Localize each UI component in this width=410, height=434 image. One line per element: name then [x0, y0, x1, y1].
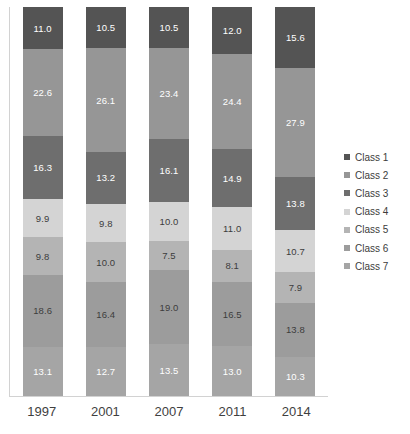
- legend-item-class-1[interactable]: Class 1: [344, 148, 410, 166]
- segment-value-label: 7.9: [289, 282, 303, 293]
- bar-segment: 10.0: [86, 242, 126, 282]
- legend-label: Class 3: [355, 188, 388, 199]
- legend: Class 1Class 2Class 3Class 4Class 5Class…: [344, 148, 410, 275]
- bar-segment: 7.9: [275, 272, 315, 303]
- stacked-bar: 11.022.616.39.99.818.613.1: [23, 7, 63, 397]
- bar-segment: 14.9: [212, 149, 252, 207]
- segment-value-label: 13.5: [160, 365, 179, 376]
- bar-segment: 11.0: [212, 207, 252, 250]
- bar-segment: 8.1: [212, 250, 252, 282]
- legend-swatch-icon: [344, 209, 350, 215]
- segment-value-label: 9.8: [99, 218, 113, 229]
- bar-segment: 16.5: [212, 282, 252, 346]
- segment-value-label: 10.3: [286, 371, 305, 382]
- bar-segment: 26.1: [86, 48, 126, 151]
- segment-value-label: 14.9: [223, 173, 242, 184]
- legend-item-class-7[interactable]: Class 7: [344, 257, 410, 275]
- bar-group-2001: 10.526.113.29.810.016.412.7: [74, 7, 137, 397]
- segment-value-label: 12.7: [96, 366, 115, 377]
- bar-segment: 16.1: [149, 139, 189, 202]
- segment-value-label: 11.0: [34, 23, 52, 34]
- legend-swatch-icon: [344, 227, 350, 233]
- segment-value-label: 13.8: [286, 324, 305, 335]
- bar-segment: 10.7: [275, 230, 315, 272]
- legend-swatch-icon: [344, 263, 350, 269]
- legend-label: Class 4: [355, 206, 388, 217]
- bar-segment: 12.0: [212, 7, 252, 54]
- segment-value-label: 9.8: [36, 251, 50, 262]
- segment-value-label: 10.5: [96, 22, 115, 33]
- segment-value-label: 11.0: [223, 223, 241, 234]
- segment-value-label: 10.0: [96, 257, 115, 268]
- bar-segment: 12.7: [86, 347, 126, 397]
- bar-segment: 16.3: [23, 136, 63, 199]
- stacked-bar: 10.523.416.110.07.519.013.5: [149, 7, 189, 397]
- bar-segment: 24.4: [212, 54, 252, 149]
- segment-value-label: 10.0: [160, 216, 179, 227]
- segment-value-label: 9.9: [36, 213, 50, 224]
- segment-value-label: 13.1: [33, 366, 52, 377]
- clipped-chart-title: [0, 0, 330, 7]
- x-tick-2007: 2007: [137, 399, 201, 425]
- x-tick-2014: 2014: [264, 399, 328, 425]
- bar-group-1997: 11.022.616.39.99.818.613.1: [11, 7, 74, 397]
- legend-item-class-2[interactable]: Class 2: [344, 166, 410, 184]
- legend-swatch-icon: [344, 190, 350, 196]
- bar-segment: 9.8: [23, 237, 63, 275]
- bar-segment: 13.8: [275, 303, 315, 357]
- plot-area: 11.022.616.39.99.818.613.110.526.113.29.…: [9, 7, 327, 397]
- bar-columns: 11.022.616.39.99.818.613.110.526.113.29.…: [11, 7, 327, 397]
- segment-value-label: 27.9: [286, 117, 305, 128]
- legend-label: Class 6: [355, 243, 388, 254]
- segment-value-label: 13.0: [223, 366, 242, 377]
- segment-value-label: 8.1: [225, 260, 239, 271]
- legend-label: Class 5: [355, 224, 388, 235]
- bar-segment: 13.5: [149, 344, 189, 397]
- segment-value-label: 16.4: [96, 309, 115, 320]
- stacked-bar: 10.526.113.29.810.016.412.7: [86, 7, 126, 397]
- bar-segment: 13.8: [275, 177, 315, 231]
- legend-item-class-5[interactable]: Class 5: [344, 221, 410, 239]
- bar-segment: 18.6: [23, 275, 63, 347]
- legend-label: Class 1: [355, 152, 388, 163]
- bar-segment: 16.4: [86, 282, 126, 347]
- legend-swatch-icon: [344, 154, 350, 160]
- segment-value-label: 19.0: [160, 302, 179, 313]
- bar-segment: 13.1: [23, 347, 63, 397]
- legend-swatch-icon: [344, 245, 350, 251]
- legend-item-class-3[interactable]: Class 3: [344, 184, 410, 202]
- segment-value-label: 10.5: [160, 22, 179, 33]
- segment-value-label: 22.6: [33, 87, 52, 98]
- stacked-bar: 12.024.414.911.08.116.513.0: [212, 7, 252, 397]
- segment-value-label: 24.4: [223, 96, 242, 107]
- stacked-bar: 15.627.913.810.77.913.810.3: [275, 7, 315, 397]
- x-axis-line: [10, 396, 328, 397]
- bar-segment: 19.0: [149, 270, 189, 344]
- x-axis-tick-labels: 19972001200720112014: [10, 399, 328, 425]
- bar-segment: 22.6: [23, 49, 63, 136]
- bar-segment: 9.8: [86, 204, 126, 243]
- legend-label: Class 2: [355, 170, 388, 181]
- legend-label: Class 7: [355, 261, 388, 272]
- segment-value-label: 10.7: [286, 246, 305, 257]
- bar-segment: 13.0: [212, 346, 252, 397]
- legend-item-class-4[interactable]: Class 4: [344, 203, 410, 221]
- bar-group-2014: 15.627.913.810.77.913.810.3: [264, 7, 327, 397]
- segment-value-label: 7.5: [162, 250, 176, 261]
- x-tick-2011: 2011: [201, 399, 265, 425]
- segment-value-label: 13.8: [286, 198, 305, 209]
- bar-segment: 11.0: [23, 7, 63, 49]
- bar-segment: 7.5: [149, 241, 189, 270]
- x-tick-2001: 2001: [74, 399, 138, 425]
- legend-swatch-icon: [344, 172, 350, 178]
- segment-value-label: 16.5: [223, 309, 242, 320]
- bar-segment: 27.9: [275, 68, 315, 177]
- segment-value-label: 15.6: [286, 32, 305, 43]
- bar-group-2011: 12.024.414.911.08.116.513.0: [201, 7, 264, 397]
- bar-segment: 10.5: [86, 7, 126, 48]
- legend-item-class-6[interactable]: Class 6: [344, 239, 410, 257]
- segment-value-label: 23.4: [160, 88, 179, 99]
- bar-segment: 10.5: [149, 7, 189, 48]
- x-tick-1997: 1997: [10, 399, 74, 425]
- stacked-bar-chart: 11.022.616.39.99.818.613.110.526.113.29.…: [0, 0, 410, 434]
